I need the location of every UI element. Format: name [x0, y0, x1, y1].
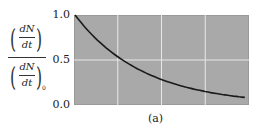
chart-svg — [0, 0, 264, 132]
decay-curve — [75, 15, 245, 97]
gridlines — [74, 15, 249, 105]
caption: (a) — [148, 112, 163, 125]
